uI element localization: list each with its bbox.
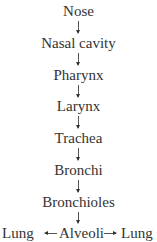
arrow-down-icon [78,180,79,192]
node-pharynx: Pharynx [0,66,157,84]
node-bronchioles: Bronchioles [0,193,157,211]
arrow-left-icon [45,233,57,234]
arrow-down-icon [78,212,79,223]
node-lung-right: Lung [121,224,153,242]
node-trachea: Trachea [0,129,157,147]
node-lung-left: Lung [2,224,34,242]
node-alveoli: Alveoli [59,224,104,242]
arrow-down-icon [78,116,79,128]
arrow-down-icon [78,53,79,65]
arrow-down-icon [78,148,79,160]
node-larynx: Larynx [0,97,157,115]
arrow-down-icon [78,21,79,33]
arrow-right-icon [104,233,116,234]
arrow-down-icon [78,85,79,97]
bottom-row: Lung Alveoli Lung [0,224,157,242]
node-bronchi: Bronchi [0,161,157,179]
node-nose: Nose [0,2,157,20]
node-nasal-cavity: Nasal cavity [0,34,157,52]
